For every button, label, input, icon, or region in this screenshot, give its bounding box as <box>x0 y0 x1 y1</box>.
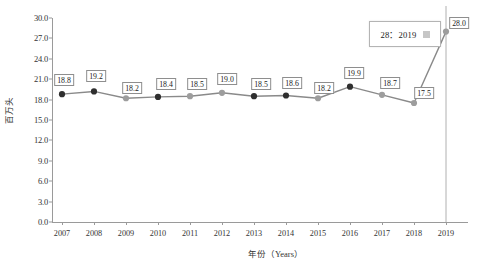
data-point-label: 18.2 <box>122 82 142 94</box>
data-point-label: 28.0 <box>449 17 469 29</box>
x-axis-title: 年份（Years） <box>248 247 303 259</box>
x-tick-label: 2019 <box>438 229 454 238</box>
x-tick-mark <box>94 222 95 225</box>
x-tick-mark <box>190 222 191 225</box>
data-point-label: 18.7 <box>380 77 400 89</box>
x-tick-label: 2016 <box>342 229 358 238</box>
y-tick-label: 18.0 <box>34 95 48 105</box>
x-tick-label: 2010 <box>150 229 166 238</box>
data-point-marker[interactable] <box>347 84 353 90</box>
data-point-label: 18.6 <box>282 77 302 89</box>
data-point-marker[interactable] <box>59 91 65 97</box>
data-point-marker[interactable] <box>283 92 289 98</box>
x-tick-mark <box>158 222 159 225</box>
x-tick-mark <box>318 222 319 225</box>
x-tick-label: 2013 <box>246 229 262 238</box>
x-tick-mark <box>254 222 255 225</box>
x-tick-label: 2017 <box>374 229 390 238</box>
y-tick-label: 0.0 <box>38 217 48 227</box>
y-tick-label: 6.0 <box>38 176 48 186</box>
x-tick-mark <box>286 222 287 225</box>
y-tick-label: 24.0 <box>34 54 48 64</box>
x-axis-line <box>52 222 468 223</box>
data-point-label: 18.4 <box>156 78 176 90</box>
data-point-label: 19.2 <box>86 70 106 82</box>
y-tick-label: 15.0 <box>34 115 48 125</box>
x-tick-label: 2007 <box>54 229 70 238</box>
data-point-label: 18.2 <box>314 82 334 94</box>
data-point-marker[interactable] <box>155 94 161 100</box>
data-point-marker[interactable] <box>123 95 129 101</box>
x-tick-mark <box>222 222 223 225</box>
x-tick-label: 2008 <box>86 229 102 238</box>
data-point-marker[interactable] <box>443 29 449 35</box>
data-point-marker[interactable] <box>251 93 257 99</box>
x-tick-label: 2012 <box>214 229 230 238</box>
plot-area: 0.03.06.09.012.015.018.021.024.027.030.0… <box>52 18 468 222</box>
data-point-marker[interactable] <box>219 90 225 96</box>
data-point-label: 19.0 <box>217 73 237 85</box>
x-tick-mark <box>350 222 351 225</box>
tooltip-box[interactable]: 28：2019 <box>369 21 441 47</box>
line-chart: 百万头 年份（Years） 0.03.06.09.012.015.018.021… <box>0 0 486 271</box>
x-tick-mark <box>126 222 127 225</box>
data-point-label: 17.5 <box>414 87 434 99</box>
y-axis-title: 百万头 <box>2 97 14 124</box>
y-tick-label: 12.0 <box>34 135 48 145</box>
x-tick-label: 2014 <box>278 229 294 238</box>
data-point-marker[interactable] <box>187 93 193 99</box>
y-tick-label: 9.0 <box>38 156 48 166</box>
x-tick-label: 2015 <box>310 229 326 238</box>
x-tick-label: 2009 <box>118 229 134 238</box>
x-tick-label: 2011 <box>182 229 198 238</box>
data-point-marker[interactable] <box>411 100 417 106</box>
data-point-label: 18.5 <box>187 78 207 90</box>
y-tick-label: 3.0 <box>38 197 48 207</box>
data-point-marker[interactable] <box>315 95 321 101</box>
x-tick-mark <box>62 222 63 225</box>
x-tick-mark <box>382 222 383 225</box>
y-tick-label: 27.0 <box>34 33 48 43</box>
data-point-label: 18.8 <box>54 74 74 86</box>
data-point-marker[interactable] <box>91 88 97 94</box>
x-tick-label: 2018 <box>406 229 422 238</box>
y-tick-label: 30.0 <box>34 13 48 23</box>
x-tick-mark <box>414 222 415 225</box>
x-tick-mark <box>446 222 447 225</box>
data-point-label: 18.5 <box>251 78 271 90</box>
series-line <box>52 18 468 222</box>
tooltip-label: 28：2019 <box>380 28 416 40</box>
y-tick-label: 21.0 <box>34 74 48 84</box>
tooltip-swatch-icon <box>423 31 430 38</box>
data-point-label: 19.9 <box>344 67 364 79</box>
data-point-marker[interactable] <box>379 92 385 98</box>
